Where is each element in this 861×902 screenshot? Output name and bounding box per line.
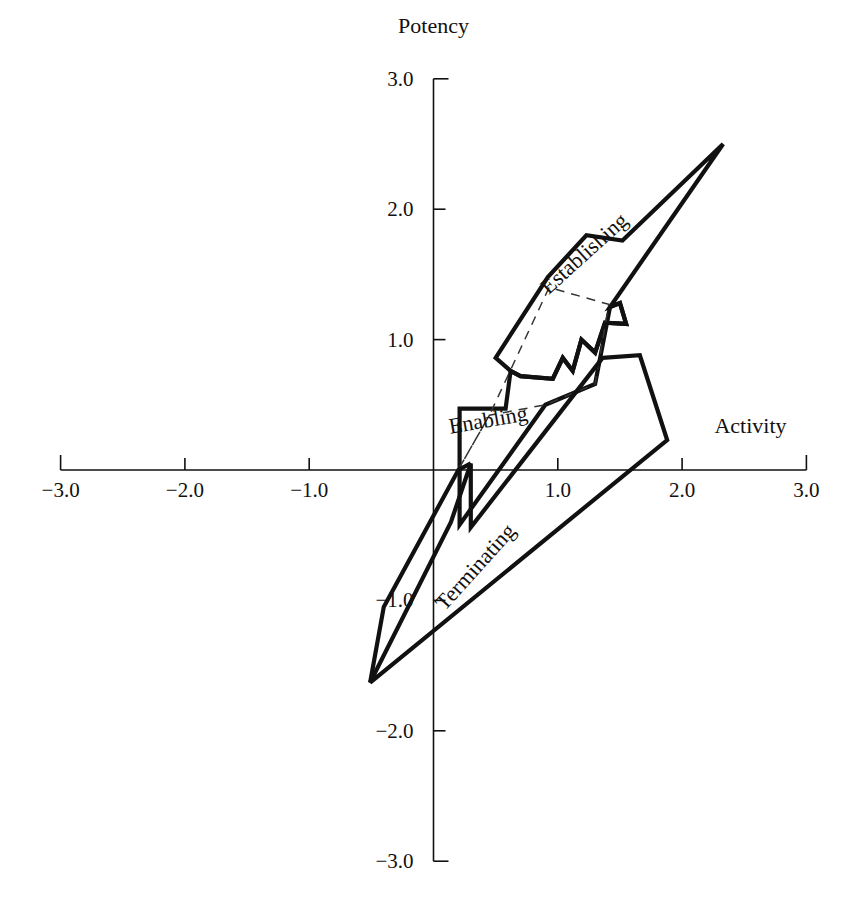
regions-layer [370,144,723,683]
region-establishing [496,144,723,379]
y-tick-label-0: 3.0 [387,67,413,91]
x-tick-label-4: 2.0 [669,478,695,502]
axis-title-potency: Potency [398,13,469,38]
semantic-differential-plot: −3.0−2.0−1.01.02.03.03.02.01.0−1.0−2.0−3… [0,0,861,902]
y-tick-label-4: −2.0 [375,719,413,743]
y-tick-label-5: −3.0 [375,849,413,873]
y-tick-label-3: −1.0 [375,588,413,612]
region-label-enabling: Enabling [447,400,530,438]
x-tick-label-5: 3.0 [793,478,819,502]
annotations-layer: PotencyActivityEstablishingEnablingTermi… [398,13,786,615]
x-tick-label-3: 1.0 [545,478,571,502]
y-tick-label-2: 1.0 [387,328,413,352]
y-tick-label-1: 2.0 [387,197,413,221]
region-label-establishing: Establishing [535,207,633,298]
x-tick-label-1: −2.0 [166,478,204,502]
axis-title-activity: Activity [714,413,786,438]
chart-container: −3.0−2.0−1.01.02.03.03.02.01.0−1.0−2.0−3… [0,0,861,902]
axes-layer [61,79,807,861]
x-tick-label-2: −1.0 [290,478,328,502]
x-tick-label-0: −3.0 [42,478,80,502]
